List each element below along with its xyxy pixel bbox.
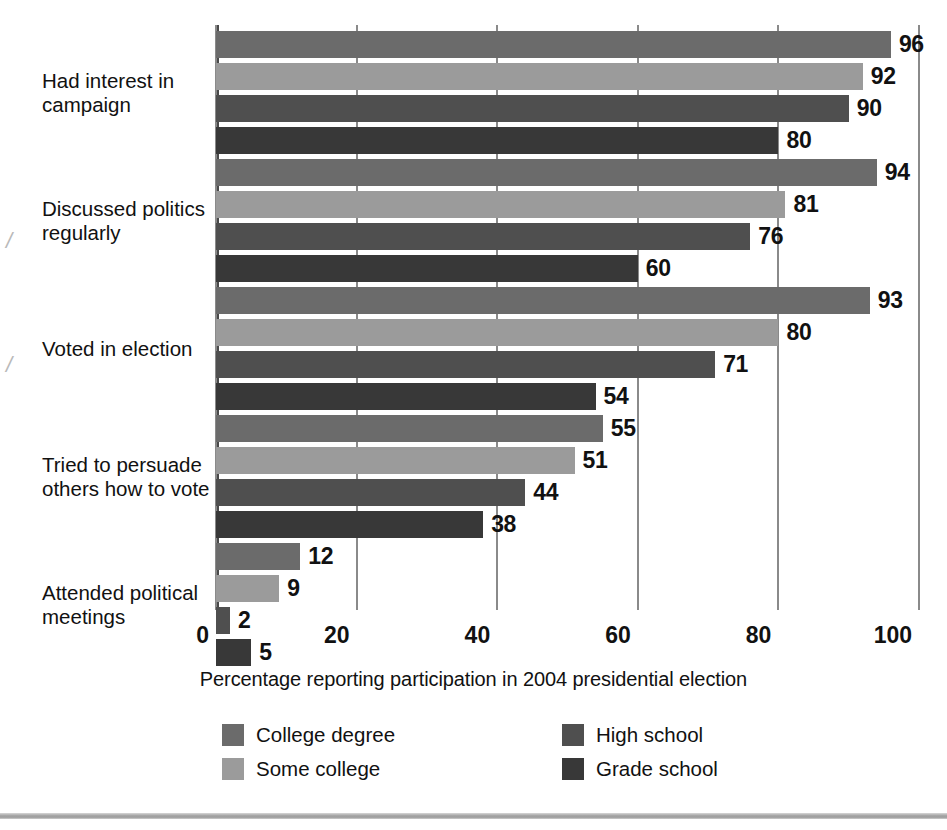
bar-value-label: 81 (793, 190, 818, 217)
scan-artifact-2: / (6, 352, 12, 378)
bar-value-label: 55 (611, 414, 636, 441)
bar-row: 51 (216, 447, 919, 474)
x-tick-label-60: 60 (605, 622, 638, 649)
bar[interactable] (216, 127, 778, 154)
bottom-rule (0, 813, 947, 819)
x-tick-label-40: 40 (465, 622, 498, 649)
bar-value-label: 9 (287, 574, 300, 601)
x-tick-label-0: 0 (196, 622, 216, 649)
bar[interactable] (216, 383, 596, 410)
bar-row: 38 (216, 511, 919, 538)
bar[interactable] (216, 95, 849, 122)
scan-artifact-1: / (6, 228, 12, 254)
category-label: Attended politicalmeetings (42, 581, 214, 629)
bar[interactable] (216, 255, 638, 282)
bar-value-label: 71 (723, 350, 748, 377)
bar-group: 55514438 (216, 415, 919, 538)
legend-label: Some college (256, 757, 380, 781)
bar-value-label: 96 (899, 30, 924, 57)
legend-item[interactable]: Grade school (562, 757, 782, 781)
category-label-line: Attended political (42, 581, 214, 605)
bar[interactable] (216, 287, 870, 314)
bar-value-label: 44 (533, 478, 558, 505)
category-label-line: regularly (42, 221, 214, 245)
bar-row: 44 (216, 479, 919, 506)
bar-row: 60 (216, 255, 919, 282)
bar[interactable] (216, 543, 300, 570)
bar-value-label: 93 (878, 286, 903, 313)
bar-value-label: 80 (786, 318, 811, 345)
category-label: Voted in election (42, 337, 214, 361)
category-label: Tried to persuadeothers how to vote (42, 453, 214, 501)
bar[interactable] (216, 351, 715, 378)
bar-row: 80 (216, 127, 919, 154)
legend-label: Grade school (596, 757, 718, 781)
bar[interactable] (216, 511, 483, 538)
category-label-line: Tried to persuade (42, 453, 214, 477)
bar[interactable] (216, 479, 525, 506)
bar[interactable] (216, 575, 279, 602)
bar[interactable] (216, 447, 575, 474)
bar-value-label: 38 (491, 510, 516, 537)
bar[interactable] (216, 159, 877, 186)
category-label-line: Had interest in (42, 69, 214, 93)
x-axis-title: Percentage reporting participation in 20… (0, 668, 947, 691)
bar-value-label: 51 (583, 446, 608, 473)
bar-row: 94 (216, 159, 919, 186)
bar-row: 96 (216, 31, 919, 58)
bar[interactable] (216, 223, 750, 250)
bar-value-label: 90 (857, 94, 882, 121)
plot-area: 9692908094817660938071545551443812925 (216, 25, 919, 610)
legend-swatch-icon (222, 724, 244, 746)
category-label-line: campaign (42, 93, 214, 117)
category-label: Had interest incampaign (42, 69, 214, 117)
bar-group: 94817660 (216, 159, 919, 282)
bar-chart-figure: 9692908094817660938071545551443812925 Ha… (0, 0, 947, 830)
bar-row: 54 (216, 383, 919, 410)
legend-item[interactable]: Some college (222, 757, 562, 781)
bar-value-label: 76 (758, 222, 783, 249)
x-tick-label-80: 80 (746, 622, 779, 649)
bar-row: 9 (216, 575, 919, 602)
bar-value-label: 94 (885, 158, 910, 185)
bar-row: 71 (216, 351, 919, 378)
bar-value-label: 80 (786, 126, 811, 153)
legend-label: College degree (256, 723, 395, 747)
bar-row: 76 (216, 223, 919, 250)
bar-group: 93807154 (216, 287, 919, 410)
bar-row: 12 (216, 543, 919, 570)
bar[interactable] (216, 415, 603, 442)
legend-swatch-icon (222, 758, 244, 780)
category-label-line: Discussed politics (42, 197, 214, 221)
bar-value-label: 12 (308, 542, 333, 569)
bar-value-label: 60 (646, 254, 671, 281)
legend: College degreeHigh schoolSome collegeGra… (222, 718, 782, 786)
bar-value-label: 92 (871, 62, 896, 89)
x-axis-tick-labels: 020406080100 (216, 622, 919, 652)
legend-item[interactable]: High school (562, 723, 782, 747)
legend-item[interactable]: College degree (222, 723, 562, 747)
legend-swatch-icon (562, 724, 584, 746)
bar-group: 96929080 (216, 31, 919, 154)
category-label: Discussed politicsregularly (42, 197, 214, 245)
x-tick-label-100: 100 (874, 622, 919, 649)
bar-row: 81 (216, 191, 919, 218)
bar-row: 55 (216, 415, 919, 442)
bar[interactable] (216, 319, 778, 346)
category-label-line: Voted in election (42, 337, 214, 361)
legend-swatch-icon (562, 758, 584, 780)
bar-row: 92 (216, 63, 919, 90)
bar-value-label: 54 (604, 382, 629, 409)
x-tick-label-20: 20 (324, 622, 357, 649)
bar-row: 90 (216, 95, 919, 122)
category-label-line: meetings (42, 605, 214, 629)
bar[interactable] (216, 63, 863, 90)
bar[interactable] (216, 31, 891, 58)
category-label-line: others how to vote (42, 477, 214, 501)
bar-row: 93 (216, 287, 919, 314)
legend-label: High school (596, 723, 703, 747)
bar[interactable] (216, 191, 785, 218)
bar-row: 80 (216, 319, 919, 346)
